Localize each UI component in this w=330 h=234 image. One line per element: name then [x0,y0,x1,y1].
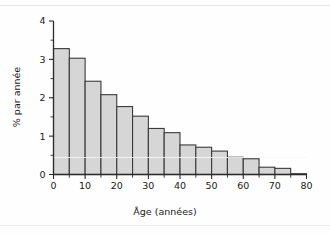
histogram-bar [180,145,196,175]
figure-container: 01020304050607080 01234 Âge (années) % p… [0,0,330,234]
histogram-bar [227,157,243,174]
y-tick-label: 3 [39,54,45,65]
y-axis-title: % par année [11,67,22,128]
x-tick-label: 80 [300,180,312,191]
x-tick-label: 30 [142,180,154,191]
x-tick-label: 40 [174,180,186,191]
histogram-bar [164,133,180,175]
y-tick-label: 4 [39,15,45,26]
histogram-bar [243,159,259,175]
histogram-bar [54,49,70,175]
histogram-bar [117,107,133,175]
histogram-bar [133,116,149,174]
histogram-bar [212,151,228,174]
histogram-bar [148,128,164,174]
x-tick-label: 50 [206,180,218,191]
y-tick-label: 1 [39,131,45,142]
y-tick-label: 0 [39,169,45,180]
histogram-bar [259,167,275,174]
histogram-bar [85,81,101,174]
histogram-bar [196,147,212,174]
y-axis-tick-labels: 01234 [39,15,45,180]
x-axis-ticks [54,175,307,180]
x-tick-label: 60 [237,180,249,191]
x-tick-label: 20 [111,180,123,191]
x-tick-label: 70 [269,180,281,191]
x-tick-label: 10 [79,180,91,191]
x-axis-tick-labels: 01020304050607080 [50,180,312,191]
x-axis-title: Âge (années) [133,206,196,217]
x-tick-label: 0 [50,180,56,191]
histogram-bar [101,95,117,175]
y-tick-label: 2 [39,92,45,103]
histogram-chart: 01020304050607080 01234 Âge (années) % p… [0,0,330,234]
y-axis-ticks [49,21,54,175]
histogram-bar [275,168,291,174]
bars-group [54,49,307,175]
